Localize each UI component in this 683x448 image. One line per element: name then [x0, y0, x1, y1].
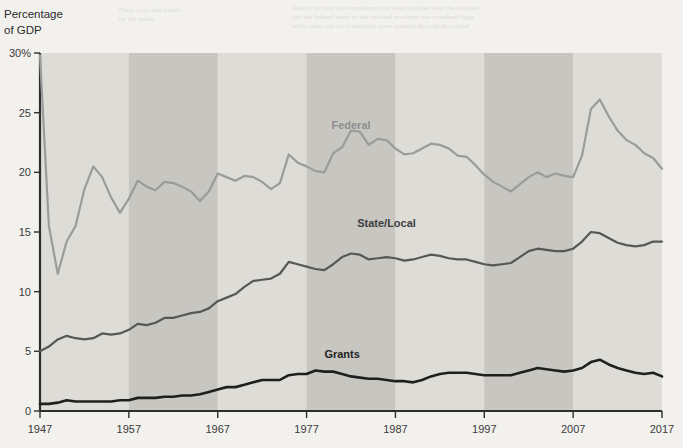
y-tick-label: 20 — [19, 166, 31, 178]
decade-band-2007 — [573, 53, 662, 411]
decade-band-1997 — [484, 53, 573, 411]
decade-band-1967 — [218, 53, 307, 411]
x-tick-label: 1947 — [28, 423, 52, 435]
x-tick-label: 1987 — [383, 423, 407, 435]
y-tick-label: 10 — [19, 286, 31, 298]
y-axis-title-line1: Percentage — [4, 8, 63, 20]
decade-band-1957 — [129, 53, 218, 411]
y-tick-label: 5 — [25, 345, 31, 357]
decade-band-1947 — [40, 53, 129, 411]
x-tick-label: 1977 — [294, 423, 318, 435]
x-tick-label: 1997 — [472, 423, 496, 435]
y-tick-label: 30% — [9, 47, 31, 59]
decade-band-1987 — [395, 53, 484, 411]
line-chart: 051015202530%194719571967197719871997200… — [0, 0, 683, 448]
y-tick-label: 15 — [19, 226, 31, 238]
chart-container: There is no free lunchfor the states fed… — [0, 0, 683, 448]
series-label-grants: Grants — [324, 348, 359, 360]
y-tick-label: 0 — [25, 405, 31, 417]
series-label-federal: Federal — [331, 119, 370, 131]
x-tick-label: 2017 — [650, 423, 674, 435]
y-tick-label: 25 — [19, 107, 31, 119]
series-label-state-local: State/Local — [357, 217, 416, 229]
x-tick-label: 2007 — [561, 423, 585, 435]
x-tick-label: 1957 — [117, 423, 141, 435]
y-axis-title-line2: of GDP — [4, 24, 42, 36]
x-tick-label: 1967 — [205, 423, 229, 435]
